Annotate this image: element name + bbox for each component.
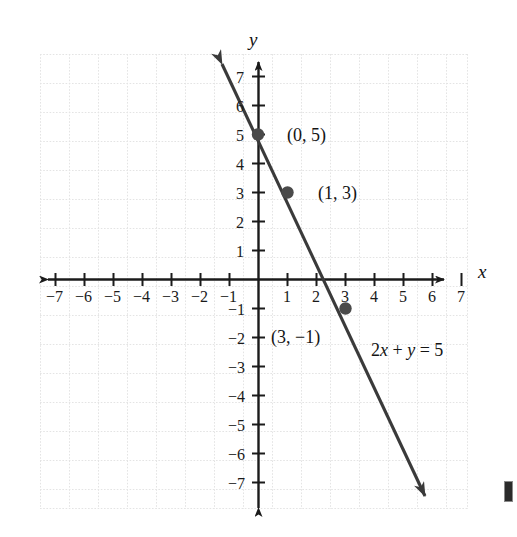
x-tick-label--6: −6 — [75, 289, 92, 305]
x-tick-label--5: −5 — [104, 289, 121, 305]
point-label-1-3: (1, 3) — [318, 184, 357, 202]
x-tick-label-7: 7 — [457, 289, 465, 305]
y-tick-label--7: −7 — [228, 476, 245, 492]
equation-coefficient: 2 — [371, 340, 380, 360]
equation-equals: = — [420, 340, 430, 360]
y-tick-label-7: 7 — [236, 70, 244, 86]
x-axis-label: x — [478, 262, 486, 281]
y-axis-label: y — [249, 30, 257, 49]
y-tick-label--6: −6 — [228, 447, 245, 463]
x-tick-label-1: 1 — [283, 289, 291, 305]
equation-var-x: x — [380, 340, 388, 360]
x-tick-label--3: −3 — [162, 289, 179, 305]
point-label-0-5: (0, 5) — [287, 126, 326, 144]
point-0-5 — [252, 128, 264, 140]
y-tick-label-6: 6 — [236, 99, 244, 115]
point-1-3 — [281, 186, 293, 198]
x-tick-label--2: −2 — [191, 289, 208, 305]
x-tick-label-5: 5 — [399, 289, 407, 305]
x-tick-label-3: 3 — [341, 289, 349, 305]
x-tick-label--7: −7 — [46, 289, 63, 305]
y-tick-label--3: −3 — [228, 360, 245, 376]
y-tick-label--5: −5 — [228, 418, 245, 434]
coordinate-plane-figure: y x −7 −6 −5 −4 −3 −2 −1 1 2 3 4 5 6 7 7… — [0, 0, 517, 537]
y-tick-label-5: 5 — [236, 128, 244, 144]
equation-constant: 5 — [434, 340, 443, 360]
y-tick-label--4: −4 — [228, 389, 245, 405]
equation-plus: + — [393, 340, 403, 360]
point-label-3-neg1: (3, −1) — [271, 328, 320, 346]
y-tick-label-4: 4 — [236, 157, 244, 173]
y-tick-label-2: 2 — [236, 215, 244, 231]
graph-canvas — [0, 0, 517, 537]
equation-var-y: y — [407, 340, 415, 360]
y-tick-label--1: −1 — [228, 302, 245, 318]
x-tick-label-6: 6 — [428, 289, 436, 305]
y-tick-label--2: −2 — [228, 331, 245, 347]
y-tick-label-1: 1 — [236, 244, 244, 260]
equation-label: 2x + y = 5 — [371, 341, 443, 359]
page-edge-mark — [504, 481, 513, 502]
x-tick-label--4: −4 — [133, 289, 150, 305]
x-tick-label-2: 2 — [312, 289, 320, 305]
x-tick-label-4: 4 — [370, 289, 378, 305]
y-tick-label-3: 3 — [236, 186, 244, 202]
